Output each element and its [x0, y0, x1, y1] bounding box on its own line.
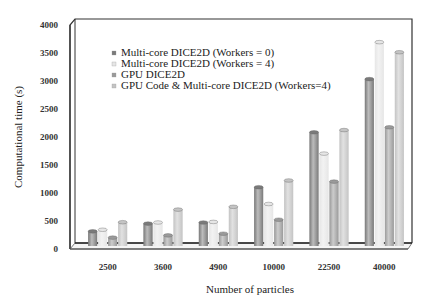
- bar: [98, 228, 107, 246]
- bar: [340, 128, 349, 246]
- bar: [284, 179, 293, 246]
- y-axis-label: Computational time (s): [12, 86, 25, 188]
- y-tick-label: 500: [45, 216, 59, 226]
- x-tick-label: 4900: [209, 262, 228, 272]
- bar: [144, 222, 153, 246]
- bar: [264, 202, 273, 246]
- legend: Multi-core DICE2D (Workers = 0)Multi-cor…: [112, 46, 331, 92]
- bar: [154, 221, 163, 246]
- bar: [330, 180, 339, 246]
- bar: [164, 234, 173, 246]
- bar-chart: 05001000150020002500300035004000 2500360…: [0, 0, 433, 308]
- bar: [88, 230, 97, 246]
- y-tick-label: 4000: [40, 20, 59, 30]
- bar: [395, 50, 404, 246]
- bar: [385, 125, 394, 246]
- bar: [209, 220, 218, 246]
- bar: [375, 40, 384, 246]
- bar: [174, 208, 183, 246]
- y-tick-label: 1000: [40, 188, 59, 198]
- y-tick-label: 1500: [40, 160, 59, 170]
- bar: [108, 236, 117, 246]
- bar: [365, 77, 374, 246]
- y-tick-label: 2000: [40, 132, 59, 142]
- y-axis-ticks: 05001000150020002500300035004000: [40, 20, 59, 254]
- x-axis-ticks: 250036004900100002250040000: [99, 262, 396, 272]
- bar: [199, 221, 208, 246]
- x-tick-label: 40000: [373, 262, 396, 272]
- y-tick-label: 3500: [40, 48, 59, 58]
- bar: [310, 131, 319, 246]
- bar: [229, 205, 238, 246]
- bar: [320, 152, 329, 246]
- y-tick-label: 3000: [40, 76, 59, 86]
- y-tick-label: 2500: [40, 104, 59, 114]
- y-tick-label: 0: [54, 244, 59, 254]
- bar: [254, 185, 263, 246]
- x-tick-label: 2500: [99, 262, 118, 272]
- bar: [118, 220, 127, 246]
- bar: [274, 218, 283, 246]
- bar: [219, 232, 228, 246]
- x-tick-label: 3600: [154, 262, 173, 272]
- x-tick-label: 10000: [262, 262, 285, 272]
- legend-entry: GPU Code & Multi-core DICE2D (Workers=4): [121, 79, 331, 92]
- x-tick-label: 22500: [318, 262, 341, 272]
- x-axis-label: Number of particles: [206, 283, 294, 295]
